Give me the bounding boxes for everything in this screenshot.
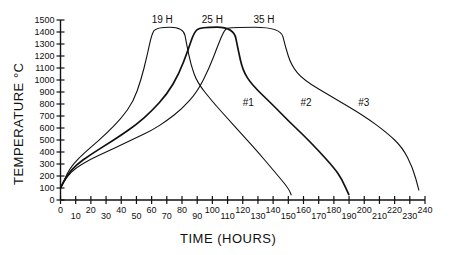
y-tick-label: 1100: [35, 63, 54, 73]
y-tick-label: 300: [39, 159, 54, 169]
x-tick-label: 150: [281, 211, 296, 221]
y-axis-title: TEMPERATURE °C: [11, 63, 26, 185]
x-tick-label: 110: [220, 211, 234, 221]
x-tick-label: 70: [162, 211, 172, 221]
y-tick-label: 400: [39, 147, 54, 157]
y-tick-label: 100: [39, 183, 54, 193]
curve-n2: [61, 27, 350, 195]
curve-n3: [61, 27, 419, 190]
curve-label: #2: [300, 97, 312, 108]
x-tick-label: 30: [101, 211, 111, 221]
y-tick-label: 700: [39, 111, 54, 121]
x-tick-label: 230: [402, 211, 417, 221]
y-tick-label: 1400: [34, 27, 54, 37]
x-tick-label: 240: [417, 205, 432, 215]
x-tick-label: 100: [205, 205, 220, 215]
hold-duration-label: 25 H: [202, 14, 223, 25]
hold-duration-label: 35 H: [253, 14, 274, 25]
curves: [61, 27, 419, 195]
x-tick-label: 40: [116, 205, 126, 215]
x-tick-label: 120: [235, 205, 250, 215]
chart-container: 0100200300400500600700800900100011001200…: [0, 0, 454, 255]
x-tick-label: 60: [147, 205, 157, 215]
x-tick-label: 220: [387, 205, 402, 215]
y-tick-label: 1000: [34, 75, 54, 85]
x-axis-title: TIME (HOURS): [180, 231, 276, 246]
x-tick-label: 90: [192, 211, 202, 221]
x-tick-label: 10: [71, 211, 81, 221]
y-tick-label: 800: [39, 99, 54, 109]
curve-label: #3: [358, 97, 370, 108]
x-tick-label: 20: [86, 205, 96, 215]
y-tick-label: 1200: [34, 51, 54, 61]
x-tick-label: 210: [372, 211, 387, 221]
axes: 0100200300400500600700800900100011001200…: [34, 15, 432, 221]
y-tick-label: 900: [39, 87, 54, 97]
x-tick-label: 200: [357, 205, 372, 215]
y-tick-label: 1300: [34, 39, 54, 49]
y-tick-label: 200: [39, 171, 54, 181]
y-tick-label: 500: [39, 135, 54, 145]
x-tick-label: 170: [311, 211, 326, 221]
x-tick-label: 130: [250, 211, 265, 221]
x-tick-label: 50: [131, 211, 141, 221]
y-tick-label: 1500: [34, 15, 54, 25]
x-tick-label: 140: [266, 205, 281, 215]
x-tick-label: 80: [177, 205, 187, 215]
curve-label: #1: [243, 97, 255, 108]
x-tick-label: 160: [296, 205, 311, 215]
x-tick-label: 0: [58, 205, 63, 215]
hold-duration-label: 19 H: [152, 14, 173, 25]
curve-n1: [61, 27, 292, 195]
temperature-time-chart: 0100200300400500600700800900100011001200…: [0, 0, 454, 255]
y-tick-label: 0: [49, 195, 54, 205]
x-tick-label: 180: [326, 205, 341, 215]
y-tick-label: 600: [39, 123, 54, 133]
x-tick-label: 190: [342, 211, 357, 221]
